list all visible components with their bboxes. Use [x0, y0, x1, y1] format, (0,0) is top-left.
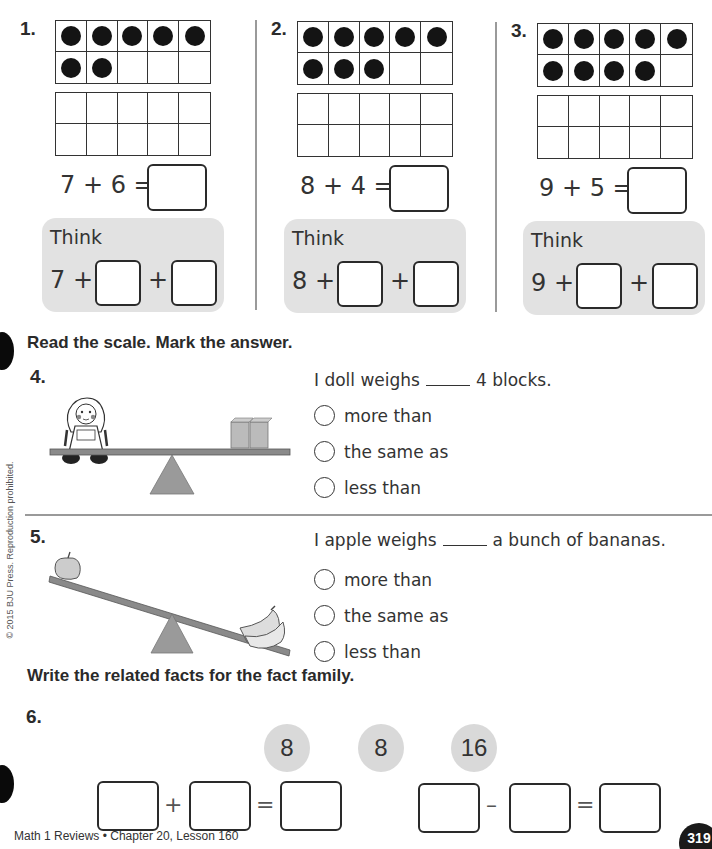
counter-dot-icon [574, 61, 594, 81]
ten-frame-cell [538, 55, 569, 86]
ten-frame-cell [661, 24, 692, 55]
addend-box-1[interactable] [97, 781, 159, 831]
counter-dot-icon [395, 27, 415, 47]
option-same-as[interactable]: the same as [314, 605, 448, 626]
option-same-as[interactable]: the same as [314, 441, 448, 462]
counter-dot-icon [92, 58, 112, 78]
radio-button[interactable] [314, 477, 335, 498]
answer-blank [443, 545, 487, 546]
equation: 9 + 5 = [539, 174, 633, 202]
radio-button[interactable] [314, 405, 335, 426]
ten-frame-cell [630, 127, 661, 158]
ten-frame-cell [298, 125, 329, 156]
ten-frame-cell [360, 53, 391, 84]
equation: 8 + 4 = [300, 172, 394, 200]
ten-frame-cell [118, 52, 149, 83]
ten-frame-filled [55, 20, 211, 84]
option-more-than[interactable]: more than [314, 569, 432, 590]
sentence-end: 4 blocks. [476, 370, 552, 390]
plus-sign: + [629, 269, 649, 297]
apple-icon [55, 552, 80, 579]
instruction-scale: Read the scale. Mark the answer. [27, 333, 293, 353]
ten-frame-cell [421, 53, 452, 84]
sentence-start: I apple weighs [314, 530, 437, 550]
ten-frame-cell [390, 22, 421, 53]
counter-dot-icon [92, 26, 112, 46]
think-label: Think [292, 227, 344, 249]
difference-box[interactable] [599, 783, 661, 833]
ten-frame-cell [87, 52, 118, 83]
think-box-2[interactable] [171, 260, 217, 306]
counter-dot-icon [543, 29, 563, 49]
family-number-1: 8 [264, 724, 310, 772]
copyright-notice: © 2015 BJU Press. Reproduction prohibite… [0, 420, 20, 680]
ten-frame-cell [118, 93, 149, 124]
problem-number: 3. [511, 20, 527, 42]
counter-dot-icon [364, 59, 384, 79]
ten-frame-cell [538, 24, 569, 55]
subtrahend-box[interactable] [509, 783, 571, 833]
footer-text: Math 1 Reviews • Chapter 20, Lesson 160 [14, 829, 238, 843]
problem-number: 4. [30, 366, 46, 388]
ten-frame-cell [390, 53, 421, 84]
counter-dot-icon [334, 27, 354, 47]
column-divider [255, 20, 257, 310]
ten-frame-cell [360, 125, 391, 156]
family-number-3: 16 [451, 724, 497, 772]
problem-number: 2. [271, 18, 287, 40]
think-addend: 7 + [50, 266, 93, 294]
option-more-than[interactable]: more than [314, 405, 432, 426]
radio-button[interactable] [314, 605, 335, 626]
equation: 7 + 6 = [60, 171, 154, 199]
ten-frame-cell [421, 94, 452, 125]
counter-dot-icon [153, 26, 173, 46]
counter-dot-icon [364, 27, 384, 47]
counter-dot-icon [635, 29, 655, 49]
think-label: Think [50, 226, 102, 248]
ten-frame-cell [179, 52, 210, 83]
think-box-2[interactable] [652, 263, 698, 309]
option-less-than[interactable]: less than [314, 641, 421, 662]
ten-frame-cell [538, 127, 569, 158]
ten-frame-cell [87, 124, 118, 155]
think-box-1[interactable] [337, 261, 383, 307]
sum-box[interactable] [280, 781, 342, 831]
ten-frame-cell [148, 52, 179, 83]
ten-frame-cell [56, 93, 87, 124]
problem-number: 5. [30, 526, 46, 548]
question-sentence: I apple weighsa bunch of bananas. [314, 530, 666, 550]
radio-button[interactable] [314, 441, 335, 462]
ten-frame-cell [360, 94, 391, 125]
doll-scale-icon [45, 390, 295, 498]
think-box-2[interactable] [413, 261, 459, 307]
ten-frame-cell [360, 22, 391, 53]
think-box-1[interactable] [576, 263, 622, 309]
answer-box[interactable] [147, 164, 207, 211]
radio-button[interactable] [314, 569, 335, 590]
ten-frame-cell [118, 124, 149, 155]
option-less-than[interactable]: less than [314, 477, 421, 498]
minuend-box[interactable] [418, 783, 480, 833]
instruction-fact-family: Write the related facts for the fact fam… [27, 666, 354, 686]
think-addend: 8 + [292, 267, 335, 295]
apple-bananas-scale-icon [45, 550, 295, 660]
ten-frame-cell [298, 22, 329, 53]
answer-box[interactable] [627, 167, 687, 214]
think-box-1[interactable] [95, 260, 141, 306]
counter-dot-icon [543, 61, 563, 81]
ten-frame-cell [56, 52, 87, 83]
blocks-icon [231, 418, 272, 448]
think-panel: Think 9 + + [523, 221, 705, 315]
ten-frame-cell [569, 96, 600, 127]
ten-frame-cell [148, 124, 179, 155]
ten-frame-cell [179, 93, 210, 124]
counter-dot-icon [604, 61, 624, 81]
plus-sign: + [390, 267, 410, 295]
radio-button[interactable] [314, 641, 335, 662]
answer-box[interactable] [389, 165, 449, 212]
counter-dot-icon [61, 26, 81, 46]
addend-box-2[interactable] [189, 781, 251, 831]
hole-punch-mark [0, 332, 14, 370]
family-number-2: 8 [358, 724, 404, 772]
think-panel: Think 8 + + [284, 219, 466, 313]
